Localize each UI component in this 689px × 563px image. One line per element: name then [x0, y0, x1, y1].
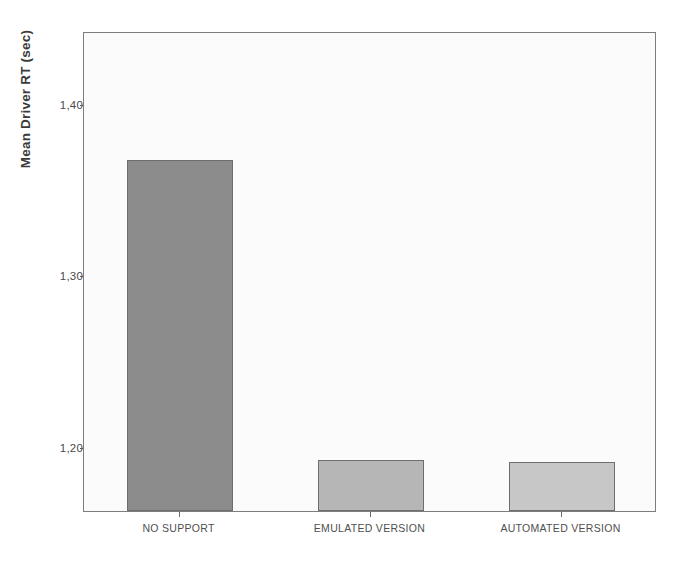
y-tick-label: 1,40	[39, 99, 83, 111]
bar	[318, 460, 424, 511]
x-tick-label: AUTOMATED VERSION	[471, 522, 651, 534]
bar	[127, 160, 233, 511]
x-tick-mark	[561, 512, 562, 517]
y-tick-label: 1,20	[39, 442, 83, 454]
bar-chart-figure: Mean Driver RT (sec) 1,401,301,20 NO SUP…	[0, 0, 689, 563]
plot-area	[83, 32, 656, 512]
plot-inner	[84, 33, 655, 511]
bar	[509, 462, 615, 511]
x-tick-mark	[179, 512, 180, 517]
x-tick-label: NO SUPPORT	[89, 522, 269, 534]
x-tick-label: EMULATED VERSION	[280, 522, 460, 534]
y-tick-label: 1,30	[39, 270, 83, 282]
y-axis-ticks: 1,401,301,20	[33, 0, 83, 563]
x-tick-mark	[370, 512, 371, 517]
